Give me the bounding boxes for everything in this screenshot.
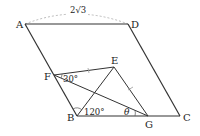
angle-label-f: 30° <box>63 74 78 84</box>
point-label-g: G <box>145 119 153 130</box>
segment-dc <box>128 24 180 116</box>
dimension-label-ad: 2√3 <box>70 5 86 15</box>
angle-arc-f <box>61 74 62 78</box>
point-label-c: C <box>183 112 191 123</box>
dimension-arc-ad <box>25 14 128 24</box>
segment-ba <box>25 24 77 116</box>
tick-mark-fe <box>88 68 89 73</box>
point-label-a: A <box>15 19 24 30</box>
angle-arc-b <box>73 108 82 110</box>
point-label-f: F <box>44 71 51 82</box>
geometry-figure: 2√3 30° 120° θ A D B C F E G <box>0 0 200 136</box>
point-label-d: D <box>131 19 139 30</box>
point-label-e: E <box>111 55 118 66</box>
angle-label-b: 120° <box>84 107 104 117</box>
angle-label-g: θ <box>124 107 130 117</box>
point-label-b: B <box>67 112 74 123</box>
